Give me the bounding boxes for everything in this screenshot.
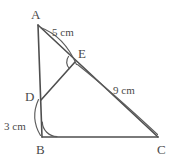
measure-arc-db <box>35 100 41 136</box>
geometry-figure: A B C D E 5 cm 9 cm 3 cm <box>0 0 173 164</box>
segment-ab <box>38 25 42 137</box>
measure-label-ae: 5 cm <box>52 27 74 38</box>
angle-mark-b <box>42 122 57 137</box>
segment-de <box>41 62 75 100</box>
vertex-label-b: B <box>36 143 45 156</box>
vertex-label-d: D <box>25 90 34 103</box>
measure-label-ec: 9 cm <box>113 85 135 96</box>
vertex-label-a: A <box>31 8 40 21</box>
vertex-label-e: E <box>78 47 86 60</box>
angle-mark-e <box>67 57 70 69</box>
vertex-label-c: C <box>157 143 166 156</box>
measure-label-db: 3 cm <box>4 121 26 132</box>
figure-canvas <box>0 0 173 164</box>
